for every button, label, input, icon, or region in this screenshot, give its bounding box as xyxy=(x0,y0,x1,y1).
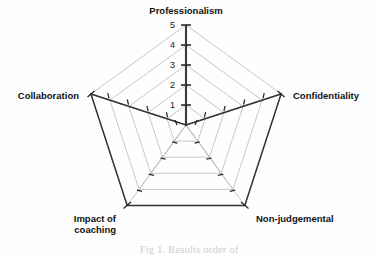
fan-line-left-bottom xyxy=(151,125,186,173)
series-marker xyxy=(108,93,109,98)
axis-label-non-judgemental: Non-judgemental xyxy=(256,213,334,224)
tick-label-4: 4 xyxy=(170,40,175,50)
radial-axis xyxy=(181,25,191,126)
axis-label-impact-of-coaching-line2: coaching xyxy=(74,224,116,235)
axis-label-confidentiality: Confidentiality xyxy=(293,90,360,101)
tick-label-1: 1 xyxy=(170,100,175,110)
series-marker xyxy=(147,106,148,111)
series-marker xyxy=(127,100,128,105)
series-marker xyxy=(166,112,167,117)
series-marker xyxy=(244,100,245,105)
tick-label-3: 3 xyxy=(170,60,175,70)
radar-chart-figure: 1 2 3 4 5 xyxy=(0,0,378,255)
tick-label-2: 2 xyxy=(170,80,175,90)
axis-label-professionalism: Professionalism xyxy=(149,5,222,16)
axis-label-collaboration: Collaboration xyxy=(18,90,79,101)
series-marker xyxy=(263,93,264,98)
fan-line-right-bottom xyxy=(186,125,221,173)
series-marker xyxy=(204,112,205,117)
axis-label-impact-of-coaching-line1: Impact of xyxy=(74,213,117,224)
radar-chart-plot: 1 2 3 4 5 xyxy=(0,0,378,255)
tick-label-5: 5 xyxy=(170,20,175,30)
series-marker xyxy=(224,106,225,111)
